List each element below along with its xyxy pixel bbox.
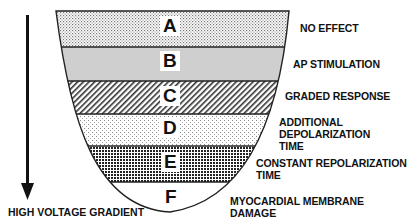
zone-a-line-1: NO EFFECT [300, 22, 359, 34]
zone-f-description: MYOCARDIAL MEMBRANE DAMAGE [230, 195, 364, 219]
zone-letter-b: B [160, 51, 180, 71]
zone-letter-c: C [160, 86, 180, 106]
zone-f-line-2: DAMAGE [230, 207, 364, 219]
zone-letter-d: D [160, 118, 180, 138]
zone-letter-a: A [160, 16, 180, 36]
zone-d-line-3: TIME [279, 140, 370, 152]
zone-letter-e: E [161, 152, 180, 172]
zone-letter-f: F [162, 187, 180, 207]
zone-d-line-2: DEPOLARIZATION [279, 128, 370, 140]
zone-e-line-1: CONSTANT REPOLARIZATION [256, 157, 407, 169]
axis-label: HIGH VOLTAGE GRADIENT [8, 206, 144, 218]
zone-d-description: ADDITIONAL DEPOLARIZATION TIME [279, 116, 370, 152]
zone-e-description: CONSTANT REPOLARIZATION TIME [256, 157, 407, 181]
zone-b-line-1: AP STIMULATION [293, 58, 380, 70]
zone-a-description: NO EFFECT [300, 22, 359, 34]
zone-c-description: GRADED RESPONSE [285, 90, 390, 102]
voltage-gradient-arrow [21, 15, 34, 200]
zone-d-line-1: ADDITIONAL [279, 116, 370, 128]
zone-c-line-1: GRADED RESPONSE [285, 90, 390, 102]
zone-b-description: AP STIMULATION [293, 58, 380, 70]
zone-f-line-1: MYOCARDIAL MEMBRANE [230, 195, 364, 207]
zone-e-line-2: TIME [256, 169, 407, 181]
